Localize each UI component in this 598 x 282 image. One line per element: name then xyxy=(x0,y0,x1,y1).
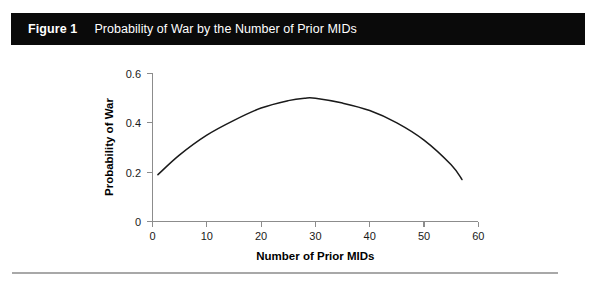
x-tick-label-10: 10 xyxy=(201,230,213,242)
x-tick-label-0: 0 xyxy=(149,230,155,242)
y-axis-ticks xyxy=(147,74,153,222)
y-tick-label-2: 0.2 xyxy=(126,167,141,179)
x-axis-title: Number of Prior MIDs xyxy=(256,250,374,262)
probability-curve xyxy=(158,98,462,180)
probability-of-war-line-chart: 0.6 0.4 0.2 0 0 10 20 30 40 50 60 Number… xyxy=(0,45,598,273)
x-tick-label-20: 20 xyxy=(255,230,267,242)
figure-title-text: Probability of War by the Number of Prio… xyxy=(94,22,356,36)
figure-caption-bar: Figure 1 Probability of War by the Numbe… xyxy=(11,13,585,45)
x-tick-label-40: 40 xyxy=(364,230,376,242)
x-tick-label-30: 30 xyxy=(309,230,321,242)
y-tick-label-3: 0 xyxy=(135,216,141,228)
y-tick-label-1: 0.4 xyxy=(126,117,141,129)
x-axis-ticks xyxy=(153,222,479,228)
y-tick-label-0: 0.6 xyxy=(126,68,141,80)
figure-bottom-rule xyxy=(12,272,558,274)
x-tick-label-60: 60 xyxy=(472,230,484,242)
y-axis-title: Probability of War xyxy=(103,97,115,195)
figure-plot-area: 0.6 0.4 0.2 0 0 10 20 30 40 50 60 Number… xyxy=(0,45,598,273)
figure-number-label: Figure 1 xyxy=(28,22,77,36)
x-tick-label-50: 50 xyxy=(418,230,430,242)
